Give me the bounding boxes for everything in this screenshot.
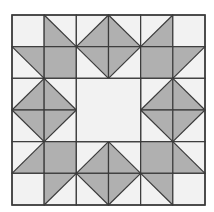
dark-square: [44, 47, 76, 79]
dark-square: [141, 142, 173, 174]
dark-square: [141, 47, 173, 79]
light-square: [12, 173, 44, 205]
light-square: [173, 173, 205, 205]
center-square: [76, 78, 140, 141]
quilt-block-diagram: [0, 0, 214, 212]
light-square: [173, 15, 205, 47]
dark-square: [44, 142, 76, 174]
light-square: [12, 15, 44, 47]
